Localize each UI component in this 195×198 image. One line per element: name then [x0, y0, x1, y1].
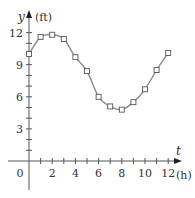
x-tick-label: 6 [95, 167, 102, 180]
square-marker-icon [119, 107, 124, 112]
square-marker-icon [166, 50, 171, 55]
x-axis-variable: t [176, 144, 181, 158]
square-marker-icon [143, 87, 148, 92]
y-axis-unit: (ft) [35, 11, 52, 24]
square-marker-icon [131, 100, 136, 105]
data-points [27, 32, 171, 112]
x-tick-label: 2 [49, 167, 56, 180]
square-marker-icon [108, 104, 113, 109]
x-tick-label: 0 [17, 167, 24, 180]
square-marker-icon [38, 34, 43, 39]
square-marker-icon [50, 32, 55, 37]
x-tick-label: 10 [138, 167, 152, 180]
square-marker-icon [27, 52, 32, 57]
x-tick-label: 8 [118, 167, 125, 180]
x-tick-label: 12 [161, 167, 175, 180]
x-tick-label: 4 [72, 167, 79, 180]
y-tick-label: 3 [16, 123, 23, 136]
x-axis-arrow-icon [174, 158, 182, 164]
y-axis-arrow-icon [26, 10, 32, 18]
square-marker-icon [96, 94, 101, 99]
axes [8, 10, 182, 190]
square-marker-icon [154, 68, 159, 73]
square-marker-icon [85, 69, 90, 74]
chart: 02468101236912y(ft)t(h) [0, 0, 195, 198]
y-axis-variable: y [17, 10, 25, 24]
square-marker-icon [61, 37, 66, 42]
x-axis-unit: (h) [176, 169, 192, 182]
square-marker-icon [73, 55, 78, 60]
y-tick-label: 9 [16, 59, 23, 72]
y-tick-label: 6 [16, 91, 23, 104]
y-tick-label: 12 [9, 27, 23, 40]
